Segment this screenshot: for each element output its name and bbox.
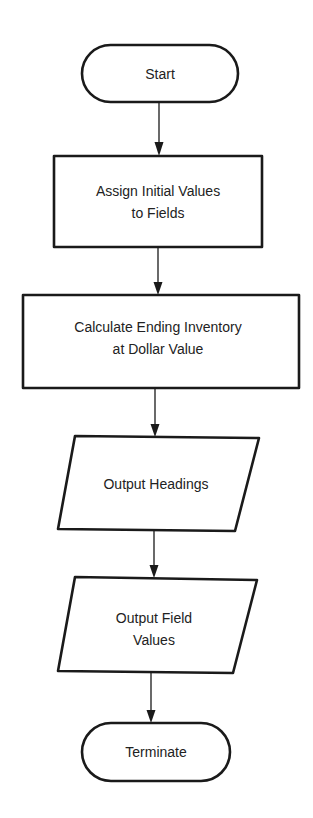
node-label-line-2: Values — [133, 632, 175, 648]
node-label: Terminate — [125, 744, 187, 760]
arrowhead-icon — [155, 142, 164, 156]
arrowhead-icon — [147, 710, 156, 723]
node-label: Start — [145, 66, 175, 82]
output-field-values-node: Output Field Values — [58, 577, 257, 673]
connector-arrow — [147, 672, 156, 723]
arrowhead-icon — [150, 565, 159, 578]
node-label-line-1: Output Field — [116, 610, 192, 626]
terminate-terminal-node: Terminate — [82, 723, 230, 781]
node-label: Output Headings — [103, 476, 208, 492]
calculate-ending-inventory-node: Calculate Ending Inventory at Dollar Val… — [23, 295, 299, 388]
node-label-line-1: Calculate Ending Inventory — [74, 319, 241, 335]
node-label-line-2: to Fields — [132, 205, 185, 221]
arrowhead-icon — [151, 424, 160, 437]
connector-arrow — [151, 388, 160, 437]
assign-initial-values-node: Assign Initial Values to Fields — [54, 156, 262, 247]
flowchart: Start Assign Initial Values to Fields Ca… — [0, 0, 313, 818]
node-label-line-1: Assign Initial Values — [96, 183, 220, 199]
connector-arrow — [155, 102, 164, 156]
node-label-line-2: at Dollar Value — [113, 341, 204, 357]
process-shape — [54, 156, 262, 247]
connector-arrow — [154, 247, 163, 295]
arrowhead-icon — [154, 282, 163, 295]
start-terminal-node: Start — [82, 45, 238, 102]
connector-arrow — [150, 530, 159, 578]
output-headings-node: Output Headings — [58, 436, 259, 531]
